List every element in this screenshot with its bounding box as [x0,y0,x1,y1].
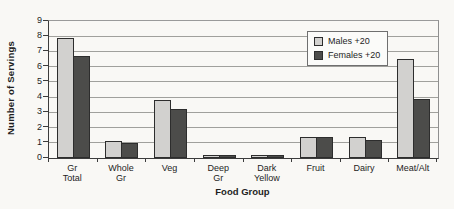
y-tick-label-3: 3 [26,107,42,116]
y-tick-label-1: 1 [26,137,42,146]
x-tick-mark [340,158,341,162]
bar-males-20-whole-gr [105,141,122,158]
bar-chart-scan: Number of Servings 0123456789 Gr TotalWh… [0,0,454,209]
legend: Males +20 Females +20 [307,31,388,66]
bar-females-20-dairy [365,140,382,158]
x-label-veg: Veg [145,163,194,173]
bar-females-20-fruit [316,137,333,158]
bar-females-20-gr-total [73,56,90,158]
y-tick-label-4: 4 [26,92,42,101]
y-tick-label-9: 9 [26,16,42,25]
x-tick-mark [291,158,292,162]
bar-group-gr-total [49,21,98,158]
x-label-dairy: Dairy [340,163,389,173]
bar-group-veg [146,21,195,158]
x-tick-mark [145,158,146,162]
bar-group-meat-alt [389,21,438,158]
x-label-dark-yellow: Dark Yellow [243,163,292,183]
x-label-gr-total: Gr Total [48,163,97,183]
y-tick-label-8: 8 [26,31,42,40]
x-label-meat-alt: Meat/Alt [388,163,437,173]
y-tick-label-5: 5 [26,76,42,85]
bar-females-20-whole-gr [121,143,138,158]
bar-group-whole-gr [98,21,147,158]
y-axis-tick-labels: 0123456789 [26,20,42,157]
bar-males-20-fruit [300,137,317,158]
x-tick-mark [436,158,437,162]
x-tick-mark [388,158,389,162]
bar-females-20-veg [170,109,187,158]
bar-males-20-meat-alt [397,59,414,158]
females-swatch-icon [314,51,323,60]
x-tick-mark [97,158,98,162]
x-label-fruit: Fruit [291,163,340,173]
y-axis-title: Number of Servings [5,41,16,135]
x-tick-mark [48,158,49,162]
x-tick-mark [243,158,244,162]
x-tick-mark [194,158,195,162]
bar-females-20-meat-alt [413,99,430,158]
y-tick-label-6: 6 [26,61,42,70]
bar-group-dark-yellow [244,21,293,158]
x-label-whole-gr: Whole Gr [97,163,146,183]
bar-males-20-veg [154,100,171,158]
bar-group-deep-gr [195,21,244,158]
bar-males-20-dairy [349,137,366,158]
males-swatch-icon [314,37,323,46]
legend-label-females: Females +20 [328,51,380,60]
y-tick-label-0: 0 [26,153,42,162]
legend-label-males: Males +20 [328,37,370,46]
x-axis-tick-marks [48,158,437,162]
x-axis-title: Food Group [48,186,437,197]
x-axis-category-labels: Gr TotalWhole GrVegDeep GrDark YellowFru… [48,163,437,185]
x-label-deep-gr: Deep Gr [194,163,243,183]
bar-males-20-gr-total [57,38,74,158]
y-tick-label-2: 2 [26,122,42,131]
legend-item-females: Females +20 [314,51,381,60]
y-tick-label-7: 7 [26,46,42,55]
legend-item-males: Males +20 [314,37,381,46]
